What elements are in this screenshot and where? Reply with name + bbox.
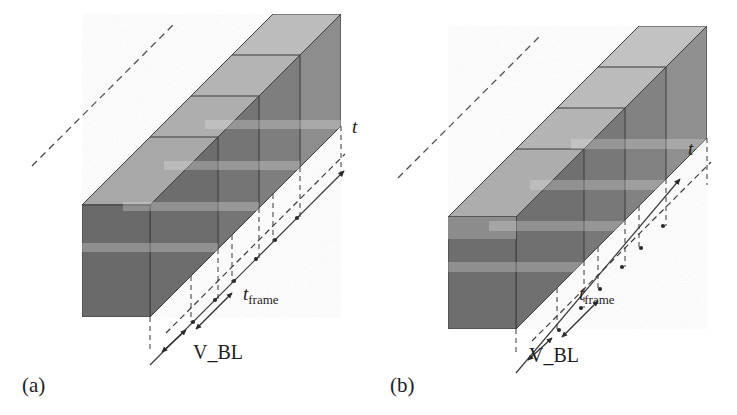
time-axis-label: t [352, 116, 358, 137]
rail-tick [661, 224, 665, 228]
time-axis-label: t [688, 138, 694, 159]
rail-tick [191, 320, 195, 324]
rail-tick [598, 287, 602, 291]
panel-label-b: (b) [390, 373, 415, 397]
panel-a-xy-axes [30, 289, 52, 310]
blanking-label: V_BL [529, 344, 579, 366]
scan-band [205, 120, 341, 129]
scan-band [82, 243, 218, 252]
rail-tick [232, 279, 236, 283]
figure-root: t tframe V_BL y x (a) [0, 0, 737, 415]
x-axis-label: x [437, 310, 443, 322]
panel-b: t tframe V_BL y x (b) [390, 26, 711, 397]
blanking-label: V_BL [193, 341, 243, 363]
rail-tick [620, 265, 624, 269]
panel-label-a: (a) [22, 373, 45, 397]
scan-band [164, 161, 300, 170]
panel-b-xy-axes [411, 295, 433, 316]
slab [448, 149, 584, 329]
frame-time-subscript: frame [248, 292, 279, 307]
rail-tick [273, 238, 277, 242]
scan-band [571, 139, 707, 149]
frame-time-label: tframe [579, 283, 615, 307]
rail-tick [557, 328, 561, 332]
x-axis-label: x [56, 304, 62, 316]
z-axis-arrow [411, 305, 422, 316]
rail-tick [639, 246, 643, 250]
vbl-arrow [162, 330, 186, 352]
scan-band [530, 180, 666, 190]
frame-time-subscript: frame [584, 292, 615, 307]
rail-tick [295, 216, 299, 220]
rail-tick [254, 257, 258, 261]
y-axis-label: y [25, 277, 31, 289]
panel-a: t tframe V_BL y x (a) [22, 14, 358, 397]
z-axis-arrow [30, 299, 41, 310]
frame-time-label: tframe [243, 283, 279, 307]
slab-front-face [82, 205, 150, 317]
y-axis-label: y [406, 283, 412, 295]
scan-band [448, 262, 584, 272]
scan-band [489, 221, 625, 231]
rail-tick [579, 306, 583, 310]
panel-b-slabs [448, 26, 707, 329]
panel-a-vbl-measure [162, 330, 186, 352]
scan-band [123, 202, 259, 211]
rail-tick [213, 298, 217, 302]
